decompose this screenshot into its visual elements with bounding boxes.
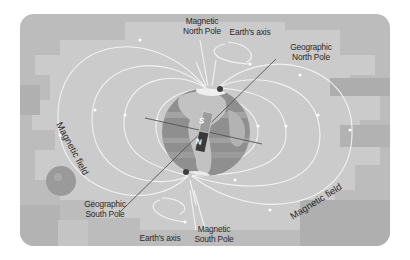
magnetic-field-diagram: S N Magnetic North Pole Earth's axis Geo…	[0, 0, 410, 260]
label-geographic-south-pole: Geographic South Pole	[76, 199, 134, 219]
label-earths-axis-top: Earth's axis	[224, 27, 277, 37]
label-earths-axis-bottom: Earth's axis	[135, 233, 184, 243]
geographic-north-pole-marker	[217, 86, 223, 92]
geographic-south-pole-marker	[183, 169, 189, 175]
label-geographic-north-pole: Geographic North Pole	[282, 42, 340, 62]
label-magnetic-north-pole: Magnetic North Pole	[176, 16, 229, 36]
label-magnetic-south-pole: Magnetic South Pole	[188, 224, 241, 244]
moon-icon	[46, 166, 76, 196]
